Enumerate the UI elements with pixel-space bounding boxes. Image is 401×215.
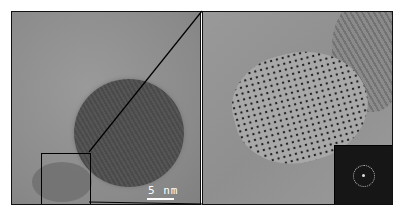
zoom-connector-lines xyxy=(0,0,401,215)
